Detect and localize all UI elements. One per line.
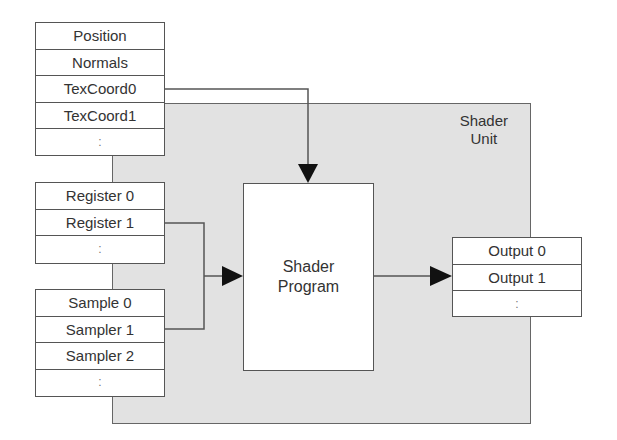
output-ellipsis: : [453, 291, 581, 318]
arrow-right-icon [222, 266, 243, 286]
sampler-stack: Sample 0 Sampler 1 Sampler 2 : [35, 289, 165, 397]
attribute-texcoord0: TexCoord0 [36, 76, 164, 103]
shader-program-label-line2: Program [278, 277, 339, 297]
register1-wire [164, 223, 204, 329]
arrow-right-icon [430, 266, 452, 286]
attribute-ellipsis: : [36, 129, 164, 156]
sampler-ellipsis: : [36, 370, 164, 397]
attribute-normals: Normals [36, 50, 164, 77]
attribute-stack: Position Normals TexCoord0 TexCoord1 : [35, 22, 165, 156]
output-0: Output 0 [453, 238, 581, 265]
shader-program-label-line1: Shader [278, 257, 339, 277]
shader-program: Shader Program [243, 183, 374, 371]
texcoord0-wire [164, 89, 308, 168]
sampler-0: Sample 0 [36, 290, 164, 317]
register-stack: Register 0 Register 1 : [35, 182, 165, 264]
register-1: Register 1 [36, 210, 164, 237]
sampler-2: Sampler 2 [36, 343, 164, 370]
output-stack: Output 0 Output 1 : [452, 237, 582, 317]
output-1: Output 1 [453, 265, 581, 292]
attribute-texcoord1: TexCoord1 [36, 103, 164, 130]
sampler-1: Sampler 1 [36, 317, 164, 344]
attribute-position: Position [36, 23, 164, 50]
arrow-down-icon [298, 164, 318, 183]
register-ellipsis: : [36, 236, 164, 263]
register-0: Register 0 [36, 183, 164, 210]
